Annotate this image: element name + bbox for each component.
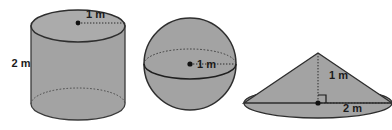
sphere-radius-label: 1 m (197, 58, 216, 70)
cone-height-label: 1 m (329, 69, 348, 81)
cylinder-height-label: 2 m (12, 57, 31, 69)
cone-radius-label: 2 m (343, 102, 362, 114)
sphere-center-dot (187, 61, 192, 66)
cylinder-shape: 1 m 2 m (12, 8, 125, 120)
cylinder-center-dot (76, 21, 81, 26)
cylinder-top-ellipse (31, 10, 125, 42)
cylinder-radius-label: 1 m (86, 8, 105, 20)
geometry-figure: 1 m 2 m 1 m (0, 0, 392, 130)
sphere-shape: 1 m (144, 18, 236, 110)
solids-svg: 1 m 2 m 1 m (0, 0, 392, 130)
cone-shape: 1 m 2 m (244, 53, 392, 118)
cone-center-dot (315, 100, 320, 105)
